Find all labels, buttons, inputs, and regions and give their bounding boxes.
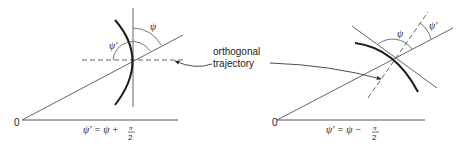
right-fraction-den: 2 xyxy=(372,133,377,142)
left-psi-arc xyxy=(133,28,161,45)
arrow-to-left xyxy=(175,61,212,66)
right-equation: ψ′ = ψ − xyxy=(326,124,362,135)
left-panel: ψ ψ′ 0 ψ′ = ψ + π 2 xyxy=(14,8,185,142)
orthogonal-trajectory-diagram: ψ ψ′ 0 ψ′ = ψ + π 2 orthogonal trajector… xyxy=(0,0,468,150)
right-psi-arc xyxy=(378,39,412,49)
left-psi-label: ψ xyxy=(150,21,157,32)
left-origin-label: 0 xyxy=(14,117,20,128)
arrow-to-right xyxy=(270,63,381,79)
left-psi-prime-label: ψ′ xyxy=(109,40,118,51)
right-origin-label: 0 xyxy=(272,117,278,128)
right-panel: ψ ψ′ 0 ψ′ = ψ − π 2 xyxy=(272,12,453,142)
right-dashed-normal xyxy=(368,12,428,98)
right-tangent-line xyxy=(352,26,437,88)
right-fraction-num: π xyxy=(373,124,377,132)
left-curve xyxy=(115,20,133,105)
left-fraction-den: 2 xyxy=(128,133,133,142)
left-fraction-num: π xyxy=(129,124,133,132)
right-radial-line xyxy=(277,28,453,120)
annotation-line-1: orthogonal xyxy=(213,46,260,57)
left-radial-line xyxy=(22,35,183,120)
right-psi-prime-label: ψ′ xyxy=(429,20,438,31)
right-psi-label: ψ xyxy=(397,28,404,39)
left-equation: ψ′ = ψ + xyxy=(83,124,119,135)
annotation: orthogonal trajectory xyxy=(175,46,381,79)
annotation-line-2: trajectory xyxy=(213,58,254,69)
